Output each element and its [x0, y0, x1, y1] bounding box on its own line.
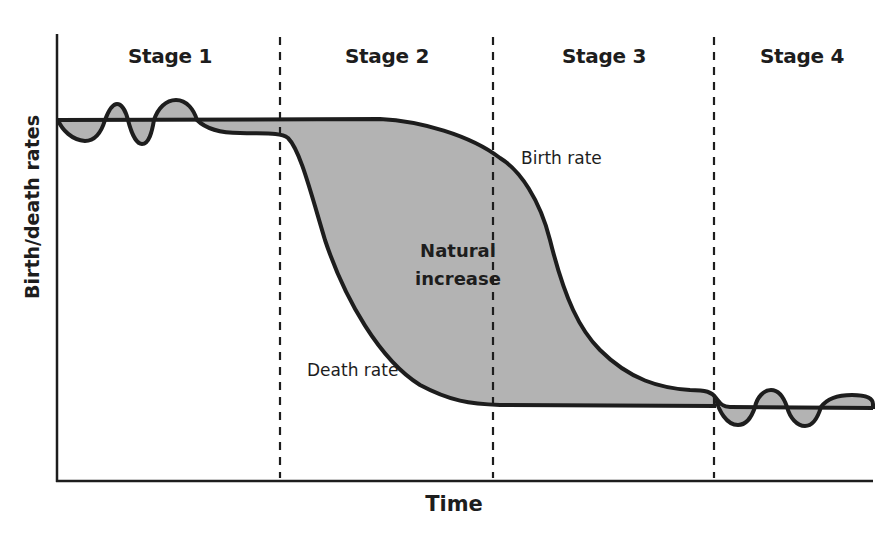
natural-increase-label: Natural increase: [415, 237, 501, 293]
natural-increase-label-line1: Natural: [415, 237, 501, 265]
stage-1-label: Stage 1: [128, 44, 212, 68]
birth-rate-label: Birth rate: [521, 148, 602, 168]
stage-4-label: Stage 4: [760, 44, 844, 68]
stage-2-label: Stage 2: [345, 44, 429, 68]
y-axis-title: Birth/death rates: [21, 115, 43, 299]
x-axis-title: Time: [425, 492, 483, 516]
natural-increase-label-line2: increase: [415, 265, 501, 293]
death-rate-label: Death rate: [307, 360, 398, 380]
stage-3-label: Stage 3: [562, 44, 646, 68]
